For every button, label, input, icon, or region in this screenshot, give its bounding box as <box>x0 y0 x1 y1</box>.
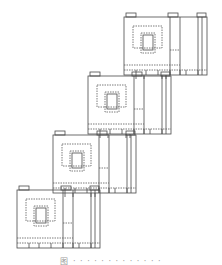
block-unit-3 <box>53 131 136 197</box>
block-unit-4 <box>17 186 100 248</box>
figure-caption: 图 · · · · · · · · · · · · · <box>0 255 222 265</box>
block-unit-2 <box>88 72 171 138</box>
block-unit-1 <box>124 13 207 79</box>
stepped-blocks-diagram <box>0 0 222 265</box>
